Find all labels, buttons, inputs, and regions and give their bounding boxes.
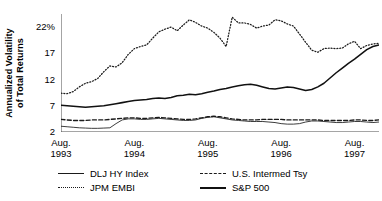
- series-line-3: [61, 45, 379, 107]
- y-axis-tick-label: 22%: [25, 22, 55, 32]
- legend-line-swatch: [58, 173, 84, 177]
- y-axis-tick-label: 2: [25, 127, 55, 137]
- x-axis-tick-label-year: 1996: [256, 148, 306, 159]
- y-axis-tick-label: 7: [25, 101, 55, 111]
- legend-label: U.S. Intermed Tsy: [232, 167, 307, 181]
- legend-line-swatch: [58, 187, 84, 191]
- legend-line-swatch: [200, 173, 226, 177]
- chart-svg: [61, 14, 379, 132]
- x-axis-tick-label: Aug.1995: [183, 137, 233, 159]
- x-axis-tick-label-month: Aug.: [256, 137, 306, 148]
- series-line-1: [61, 17, 379, 94]
- y-axis-tick-label: 12: [25, 75, 55, 85]
- x-axis-tick-label-year: 1995: [183, 148, 233, 159]
- x-axis-tick-label: Aug.1997: [330, 137, 380, 159]
- legend-line-swatch: [200, 187, 226, 192]
- x-axis-tick-label-month: Aug.: [109, 137, 159, 148]
- volatility-line-chart: Annualized Volatility of Total Returns 2…: [0, 0, 382, 201]
- x-axis-tick-label: Aug.1993: [36, 137, 86, 159]
- plot-area: [61, 14, 379, 132]
- legend-label: JPM EMBI: [90, 181, 135, 195]
- legend-label: DLJ HY Index: [90, 167, 148, 181]
- chart-legend: DLJ HY IndexJPM EMBIU.S. Intermed TsyS&P…: [58, 167, 358, 197]
- series-line-2: [61, 116, 379, 120]
- x-axis-tick-labels: Aug.1993Aug.1994Aug.1995Aug.1996Aug.1997: [0, 137, 382, 163]
- legend-label: S&P 500: [232, 181, 269, 195]
- series-line-0: [61, 117, 379, 129]
- x-axis-tick-label-year: 1997: [330, 148, 380, 159]
- x-axis-tick-label-month: Aug.: [183, 137, 233, 148]
- x-axis-tick-label: Aug.1994: [109, 137, 159, 159]
- x-axis-tick-label-year: 1993: [36, 148, 86, 159]
- x-axis-tick-label-month: Aug.: [36, 137, 86, 148]
- y-axis-tick-labels: 27121722%: [22, 0, 55, 160]
- y-axis-title-line1: Annualized Volatility: [4, 8, 15, 138]
- x-axis-tick-label: Aug.1996: [256, 137, 306, 159]
- x-axis-tick-label-month: Aug.: [330, 137, 380, 148]
- x-axis-tick-label-year: 1994: [109, 148, 159, 159]
- y-axis-tick-label: 17: [25, 48, 55, 58]
